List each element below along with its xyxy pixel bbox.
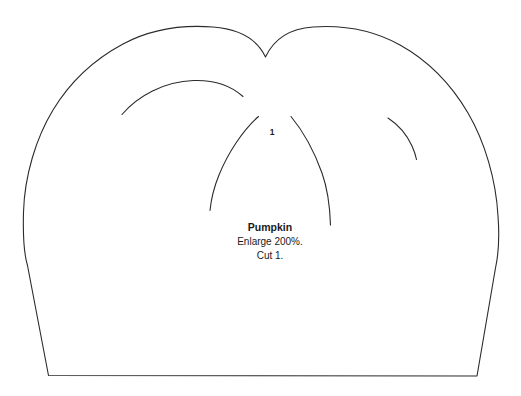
- pumpkin-body-outline: [23, 26, 498, 376]
- pattern-enlarge-instruction: Enlarge 200%.: [237, 236, 303, 247]
- pattern-title-label: Pumpkin: [248, 221, 292, 233]
- pattern-piece-number: 1: [270, 127, 275, 137]
- pumpkin-pattern-drawing: 1 Pumpkin Enlarge 200%. Cut 1.: [0, 0, 521, 396]
- pattern-sheet: 1 Pumpkin Enlarge 200%. Cut 1.: [0, 0, 521, 396]
- pattern-cut-instruction: Cut 1.: [257, 250, 284, 261]
